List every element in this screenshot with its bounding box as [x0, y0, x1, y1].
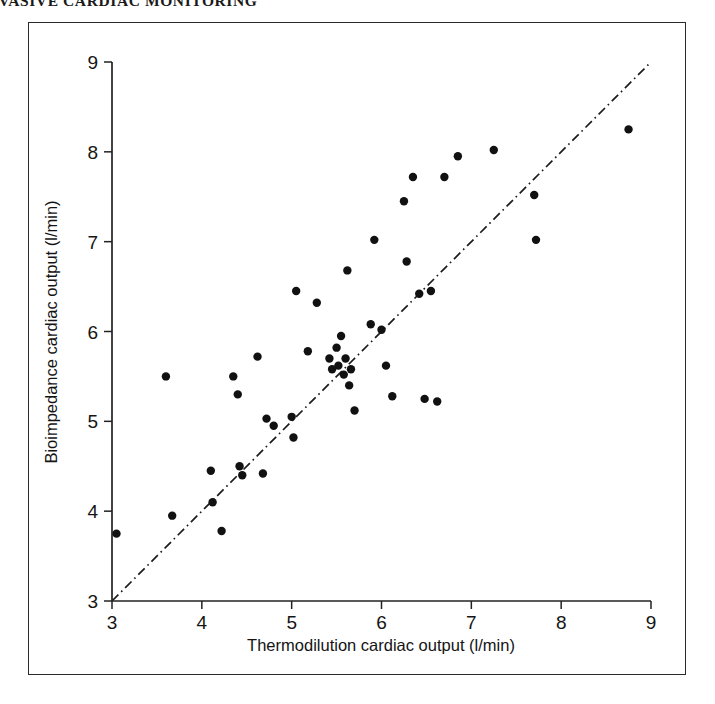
figure-border — [28, 22, 686, 675]
running-head: NON-INVASIVE CARDIAC MONITORING — [0, 0, 430, 11]
running-head-text: NON-INVASIVE CARDIAC MONITORING — [0, 0, 430, 11]
figure-page: NON-INVASIVE CARDIAC MONITORING 34567893… — [0, 0, 715, 704]
